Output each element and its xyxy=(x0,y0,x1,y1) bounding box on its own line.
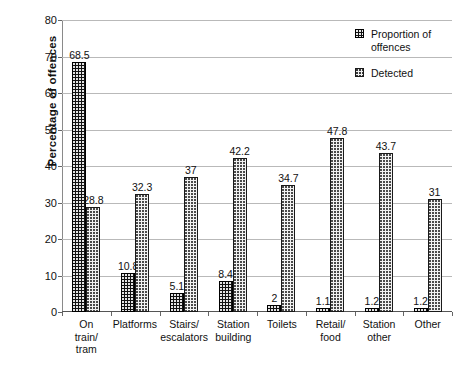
bar-value-label: 31 xyxy=(429,187,441,198)
y-axis-tick-label: 50 xyxy=(45,124,57,136)
bar-group: 1.147.8 xyxy=(306,20,355,312)
bar-value-label: 8.4 xyxy=(218,269,233,280)
y-axis-tick-label: 80 xyxy=(45,14,57,26)
bar-value-label: 28.8 xyxy=(83,195,103,206)
x-axis-category-label: Platforms xyxy=(111,318,160,368)
x-axis-category-labels: Ontrain/tramPlatformsStairs/escalatorsSt… xyxy=(62,318,452,368)
x-axis-category-label: Toilets xyxy=(258,318,307,368)
x-axis-tick-mark xyxy=(403,312,404,316)
bar-value-label: 2 xyxy=(271,293,277,304)
x-axis-tick-mark xyxy=(355,312,356,316)
bar-detected[interactable]: 28.8 xyxy=(86,207,100,312)
bar-value-label: 47.8 xyxy=(327,126,347,137)
y-axis-tick-label: 20 xyxy=(45,233,57,245)
x-axis-category-label: Stationbuilding xyxy=(209,318,258,368)
x-axis-tick-mark xyxy=(111,312,112,316)
bar-group: 8.442.2 xyxy=(208,20,257,312)
bar-value-label: 37 xyxy=(185,165,197,176)
x-axis-category-label: Stairs/escalators xyxy=(159,318,209,368)
bar-value-label: 1.1 xyxy=(316,296,331,307)
x-axis-category-label: Other xyxy=(403,318,452,368)
legend-item-label: Proportion of offences xyxy=(371,28,463,53)
bar-detected[interactable]: 47.8 xyxy=(330,138,344,312)
x-axis-tick-mark xyxy=(452,312,453,316)
bar-group: 234.7 xyxy=(257,20,306,312)
bar-proportion-of-offences[interactable]: 5.1 xyxy=(170,293,184,312)
x-axis-category-label: Ontrain/tram xyxy=(62,318,111,368)
bar-proportion-of-offences[interactable]: 2 xyxy=(267,305,281,312)
chart-legend: Proportion of offencesDetected xyxy=(355,28,463,94)
bar-proportion-of-offences[interactable]: 10.8 xyxy=(121,273,135,312)
x-axis-tick-marks xyxy=(62,312,452,316)
bar-group: 5.137 xyxy=(160,20,209,312)
y-axis-tick-label: 40 xyxy=(45,160,57,172)
legend-item[interactable]: Proportion of offences xyxy=(355,28,463,53)
x-axis-category-label: Stationother xyxy=(355,318,404,368)
bar-detected[interactable]: 34.7 xyxy=(281,185,295,312)
y-axis-tick-label: 10 xyxy=(45,270,57,282)
y-axis-tick-label: 60 xyxy=(45,87,57,99)
y-axis-tick-label: 30 xyxy=(45,197,57,209)
legend-swatch-proportion-icon xyxy=(355,29,364,38)
bar-value-label: 1.2 xyxy=(365,296,380,307)
x-axis-tick-mark xyxy=(160,312,161,316)
x-axis-tick-mark xyxy=(208,312,209,316)
legend-swatch-detected-icon xyxy=(355,68,364,77)
bar-value-label: 5.1 xyxy=(170,281,185,292)
bar-value-label: 34.7 xyxy=(278,173,298,184)
legend-item[interactable]: Detected xyxy=(355,67,463,80)
bar-group: 10.832.3 xyxy=(111,20,160,312)
y-axis-title: Percentage of offences xyxy=(46,0,60,216)
bar-value-label: 1.2 xyxy=(413,296,428,307)
legend-item-label: Detected xyxy=(371,67,413,80)
x-axis-tick-mark xyxy=(306,312,307,316)
x-axis-tick-mark xyxy=(257,312,258,316)
bar-detected[interactable]: 37 xyxy=(184,177,198,312)
bar-value-label: 68.5 xyxy=(69,50,89,61)
bar-group: 68.528.8 xyxy=(62,20,111,312)
x-axis-category-label: Retail/food xyxy=(306,318,355,368)
y-axis-tick-label: 70 xyxy=(45,51,57,63)
bar-detected[interactable]: 43.7 xyxy=(379,153,393,313)
bar-detected[interactable]: 42.2 xyxy=(233,158,247,312)
y-axis-tick-label: 0 xyxy=(51,306,57,318)
bar-detected[interactable]: 31 xyxy=(428,199,442,312)
bar-chart: Percentage of offences 01020304050607080… xyxy=(0,0,465,371)
x-axis-tick-mark xyxy=(62,312,63,316)
bar-detected[interactable]: 32.3 xyxy=(135,194,149,312)
bar-value-label: 42.2 xyxy=(229,146,249,157)
bar-proportion-of-offences[interactable]: 68.5 xyxy=(72,62,86,312)
bar-value-label: 32.3 xyxy=(132,182,152,193)
bar-value-label: 43.7 xyxy=(376,141,396,152)
bar-proportion-of-offences[interactable]: 8.4 xyxy=(219,281,233,312)
